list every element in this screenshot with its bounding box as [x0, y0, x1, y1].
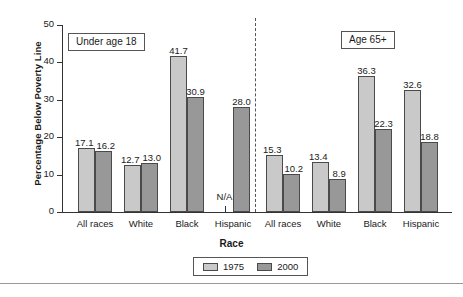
na-tick [225, 206, 226, 212]
bar-value: 32.6 [403, 79, 422, 90]
bar-value: 22.3 [374, 118, 393, 129]
annotation-under-age-18: Under age 18 [68, 33, 145, 51]
y-tick-label-30: 30 [43, 93, 54, 104]
bar-value: 41.7 [169, 45, 188, 56]
chart-legend: 1975 2000 [193, 257, 308, 276]
bar-2000-hispanic-under18: 28.0 [233, 107, 250, 212]
bar-value: 16.2 [96, 140, 115, 151]
bar-value: 12.7 [121, 154, 140, 165]
plot-area: 50 40 30 20 10 0 17.1 16.2 All races 12 [62, 25, 452, 212]
legend-item-1975: 1975 [203, 261, 244, 272]
y-tick-10: 10 [57, 175, 62, 176]
x-axis-line [62, 212, 452, 213]
y-tick-label-10: 10 [43, 168, 54, 179]
y-axis-line [62, 25, 63, 213]
bar-2000-white-age65: 8.9 [329, 179, 346, 212]
bar-value: 10.2 [284, 163, 303, 174]
bar-value: 30.9 [186, 86, 205, 97]
bar-value: 13.0 [142, 152, 161, 163]
x-tick-label-white-age65: White [317, 218, 341, 229]
panel-divider [255, 18, 256, 212]
bar-value: 18.8 [420, 131, 439, 142]
x-tick-label-hispanic-under18: Hispanic [215, 218, 251, 229]
bar-value: 15.3 [263, 144, 282, 155]
y-tick-label-40: 40 [43, 55, 54, 66]
bar-chart-figure: Percentage Below Poverty Line 50 40 30 2… [0, 0, 463, 297]
y-axis-title: Percentage Below Poverty Line [32, 14, 43, 214]
x-tick-label-all-races-age65: All races [265, 218, 301, 229]
bar-2000-all-races-under18: 16.2 [95, 151, 112, 212]
bar-2000-white-under18: 13.0 [141, 163, 158, 212]
bar-1975-white-age65: 13.4 [312, 162, 329, 212]
y-tick-30: 30 [57, 100, 62, 101]
bar-2000-all-races-age65: 10.2 [283, 174, 300, 212]
bar-1975-white-under18: 12.7 [124, 165, 141, 213]
x-axis-title: Race [0, 238, 463, 249]
bar-2000-black-under18: 30.9 [187, 97, 204, 213]
x-tick-label-black-under18: Black [175, 218, 198, 229]
annotation-age-65-plus: Age 65+ [341, 31, 395, 49]
y-tick-label-20: 20 [43, 130, 54, 141]
bar-2000-hispanic-age65: 18.8 [421, 142, 438, 212]
legend-label-2000: 2000 [277, 261, 298, 272]
y-tick-0: 0 [57, 212, 62, 213]
x-tick-label-black-age65: Black [363, 218, 386, 229]
x-tick-label-all-races-under18: All races [77, 218, 113, 229]
y-tick-50: 50 [57, 25, 62, 26]
y-tick-40: 40 [57, 62, 62, 63]
y-tick-label-0: 0 [49, 205, 54, 216]
legend-swatch-2000 [257, 263, 272, 271]
na-label: N/A [217, 191, 233, 202]
bar-value: 36.3 [357, 65, 376, 76]
bar-value: 13.4 [309, 151, 328, 162]
legend-swatch-1975 [203, 263, 218, 271]
x-tick-label-hispanic-age65: Hispanic [403, 218, 439, 229]
y-tick-20: 20 [57, 137, 62, 138]
x-tick-label-white-under18: White [129, 218, 153, 229]
bar-value: 17.1 [75, 137, 94, 148]
bar-1975-all-races-age65: 15.3 [266, 155, 283, 212]
bar-1975-black-age65: 36.3 [358, 76, 375, 212]
y-tick-label-50: 50 [43, 18, 54, 29]
bar-1975-black-under18: 41.7 [170, 56, 187, 212]
bar-value: 8.9 [332, 168, 345, 179]
bar-value: 28.0 [232, 96, 251, 107]
bar-1975-hispanic-age65: 32.6 [404, 90, 421, 212]
bar-1975-all-races-under18: 17.1 [78, 148, 95, 212]
bar-2000-black-age65: 22.3 [375, 129, 392, 212]
legend-label-1975: 1975 [223, 261, 244, 272]
legend-item-2000: 2000 [257, 261, 298, 272]
bottom-divider-rule [0, 283, 463, 284]
